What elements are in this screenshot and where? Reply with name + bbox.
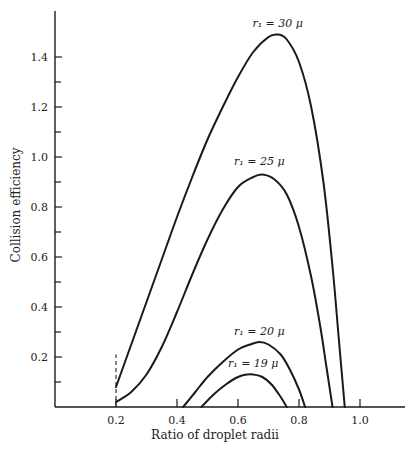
x-axis-title: Ratio of droplet radii [151, 428, 279, 442]
x-tick-label: 0.2 [107, 414, 125, 427]
y-tick-label: 0.6 [31, 251, 49, 264]
curve-125mu [116, 174, 333, 407]
ticks: 0.20.40.60.81.00.20.40.60.81.01.21.4 [31, 51, 369, 427]
curve-label: r₁ = 25 μ [234, 155, 285, 168]
curves [116, 34, 345, 407]
y-tick-label: 1.0 [31, 151, 49, 164]
y-tick-label: 1.2 [31, 101, 49, 114]
x-tick-label: 0.6 [229, 414, 247, 427]
x-tick-label: 0.8 [290, 414, 308, 427]
curve-119mu [201, 374, 286, 407]
curve-label: r₁ = 19 μ [228, 357, 279, 370]
y-tick-label: 0.4 [31, 301, 49, 314]
x-tick-label: 0.4 [168, 414, 186, 427]
collision-efficiency-chart: 0.20.40.60.81.00.20.40.60.81.01.21.4 r₁ … [0, 0, 411, 449]
axes [55, 11, 405, 407]
y-tick-label: 0.2 [31, 351, 49, 364]
x-tick-label: 1.0 [351, 414, 369, 427]
curve-label: r₁ = 20 μ [234, 325, 285, 338]
y-tick-label: 1.4 [31, 51, 49, 64]
y-axis-title: Collision efficiency [9, 147, 23, 262]
curve-label: r₁ = 30 μ [252, 17, 303, 30]
curve-130mu [116, 34, 345, 407]
curve-labels: r₁ = 30 μr₁ = 25 μr₁ = 20 μr₁ = 19 μ [228, 17, 303, 370]
y-tick-label: 0.8 [31, 201, 49, 214]
